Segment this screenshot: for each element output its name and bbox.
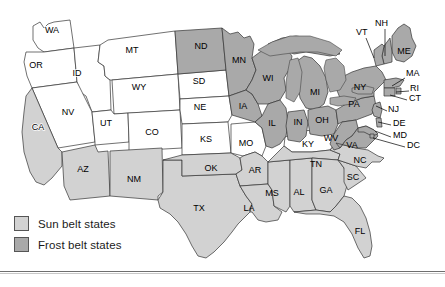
state-label-SD: SD	[193, 76, 206, 86]
state-label-IL: IL	[268, 118, 276, 128]
state-label-MI: MI	[310, 87, 320, 97]
frost-belt-label: Frost belt states	[38, 239, 122, 251]
leader-line-CT	[390, 95, 407, 100]
leader-line-VT	[366, 38, 374, 58]
state-label-IN: IN	[294, 117, 303, 127]
callout-label-RI: RI	[410, 83, 419, 93]
us-map-figure: WAORIDMTNDMNSDWYWIMINEIANVUTCACOKSMOILIN…	[0, 0, 445, 287]
state-NJ	[372, 102, 382, 118]
state-label-VA: VA	[346, 140, 357, 150]
state-RI	[396, 88, 401, 94]
sun-belt-label: Sun belt states	[38, 218, 116, 230]
bottom-divider	[0, 271, 445, 272]
state-label-KY: KY	[302, 139, 314, 149]
state-label-OH: OH	[315, 115, 329, 125]
state-label-FL: FL	[355, 226, 366, 236]
state-label-ME: ME	[397, 46, 411, 56]
state-WY	[112, 74, 180, 114]
state-label-WI: WI	[263, 73, 274, 83]
state-label-KS: KS	[200, 134, 212, 144]
state-DC	[370, 134, 374, 138]
callout-label-MD: MD	[393, 130, 407, 140]
state-NH	[382, 38, 392, 64]
state-label-IA: IA	[239, 101, 248, 111]
state-label-PA: PA	[348, 99, 359, 109]
legend-item-sun-belt: Sun belt states	[14, 213, 184, 234]
state-label-WA: WA	[45, 25, 59, 35]
state-label-NM: NM	[127, 174, 141, 184]
state-label-GA: GA	[319, 185, 332, 195]
state-CT	[384, 88, 395, 96]
state-label-NC: NC	[354, 155, 367, 165]
state-label-NV: NV	[62, 107, 75, 117]
state-label-LA: LA	[243, 203, 254, 213]
state-label-WY: WY	[132, 82, 147, 92]
callout-label-CT: CT	[409, 93, 421, 103]
state-label-CA: CA	[32, 122, 45, 132]
state-label-AZ: AZ	[77, 164, 89, 174]
state-label-ND: ND	[195, 41, 208, 51]
state-label-AR: AR	[249, 165, 262, 175]
state-label-WV: WV	[324, 133, 339, 143]
state-label-OR: OR	[29, 60, 43, 70]
legend-item-frost-belt: Frost belt states	[14, 234, 184, 255]
state-label-UT: UT	[100, 118, 112, 128]
frost-belt-swatch	[14, 237, 29, 252]
state-label-CO: CO	[145, 127, 159, 137]
state-MT	[98, 31, 178, 80]
state-label-MO: MO	[239, 138, 254, 148]
callout-label-VT: VT	[356, 27, 368, 37]
callout-label-DC: DC	[407, 140, 420, 150]
state-label-MT: MT	[126, 45, 139, 55]
state-label-NE: NE	[194, 102, 207, 112]
state-label-TN: TN	[310, 159, 322, 169]
state-label-TX: TX	[193, 203, 205, 213]
sun-belt-swatch	[14, 216, 29, 231]
state-label-AL: AL	[293, 187, 304, 197]
map-legend: Sun belt states Frost belt states	[14, 213, 184, 255]
state-MA	[384, 78, 404, 88]
callout-label-NH: NH	[375, 18, 388, 28]
state-label-NY: NY	[354, 82, 367, 92]
callout-label-DE: DE	[393, 118, 406, 128]
state-label-OK: OK	[204, 163, 217, 173]
callout-label-MA: MA	[406, 68, 420, 78]
state-label-ID: ID	[73, 68, 83, 78]
state-label-MS: MS	[265, 188, 279, 198]
bottom-divider-soft	[0, 273, 445, 274]
state-VT	[374, 44, 384, 66]
callout-label-NJ: NJ	[388, 104, 399, 114]
state-label-SC: SC	[347, 172, 360, 182]
state-label-MN: MN	[232, 55, 246, 65]
